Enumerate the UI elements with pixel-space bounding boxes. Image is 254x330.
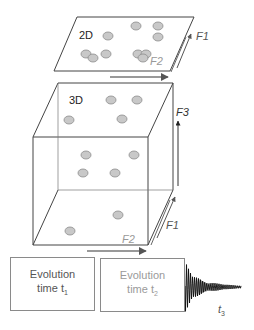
- fid-signal: [185, 265, 241, 312]
- acquisition-time-t3-label: t3: [218, 303, 225, 317]
- peak-3d: [64, 116, 74, 124]
- evolution-time-t1-box: Evolution time t1: [10, 257, 95, 311]
- peak-3d: [117, 115, 127, 123]
- label-3d: 3D: [69, 95, 83, 106]
- peak-3d: [110, 169, 120, 177]
- plane-2d: [54, 17, 194, 71]
- box1-line2: time t1: [37, 281, 68, 300]
- box1-line1: Evolution: [30, 267, 75, 281]
- peak-3d: [78, 169, 88, 177]
- box2-subscript: 2: [154, 291, 158, 298]
- box1-subscript: 1: [64, 290, 68, 297]
- peak-3d: [81, 151, 91, 159]
- peak-3d: [106, 96, 116, 104]
- evolution-time-t2-box: Evolution time t2: [100, 258, 185, 312]
- f1-arrow-3d: [157, 197, 175, 238]
- peak-2d: [88, 54, 98, 62]
- peak-3d: [65, 227, 75, 235]
- label-2d: 2D: [79, 30, 93, 41]
- box2-line2: time t2: [127, 282, 158, 301]
- peak-3d: [129, 151, 139, 159]
- f1-axis-line-2d: [171, 37, 186, 72]
- peak-3d: [113, 211, 123, 219]
- peak-3d: [132, 96, 142, 104]
- cube-3d: [33, 83, 173, 245]
- axis-label-f2-2d: F2: [150, 56, 163, 67]
- t3-subscript: 3: [221, 310, 225, 317]
- peak-2d: [153, 33, 163, 41]
- axis-label-f1-3d: F1: [166, 220, 179, 231]
- peak-2d: [103, 32, 113, 40]
- peaks-3d: [64, 96, 142, 235]
- axis-label-f1-2d: F1: [196, 31, 209, 42]
- box1-line2-text: time t: [37, 282, 64, 294]
- box2-line1: Evolution: [120, 268, 165, 282]
- box2-line2-text: time t: [127, 283, 154, 295]
- peak-2d: [131, 22, 141, 30]
- axis-label-f2-3d: F2: [122, 234, 135, 245]
- axis-label-f3: F3: [176, 107, 189, 118]
- peak-2d: [101, 50, 111, 58]
- peak-2d: [138, 54, 148, 62]
- peak-2d: [153, 22, 163, 30]
